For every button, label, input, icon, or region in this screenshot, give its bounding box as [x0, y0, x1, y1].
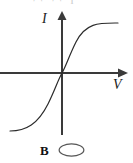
answer-letter-b: B [40, 144, 49, 157]
y-axis-arrowhead [58, 11, 67, 20]
answer-bubble[interactable] [58, 143, 85, 157]
iv-curve [10, 23, 118, 131]
answer-option-b[interactable]: B [40, 143, 85, 157]
iv-characteristic-figure: ◠ ◠ ı I V B [0, 0, 133, 163]
iv-plot [0, 0, 133, 143]
answer-bubble-outline [59, 144, 84, 156]
y-axis-label: I [42, 12, 47, 26]
x-axis-label: V [113, 78, 122, 92]
